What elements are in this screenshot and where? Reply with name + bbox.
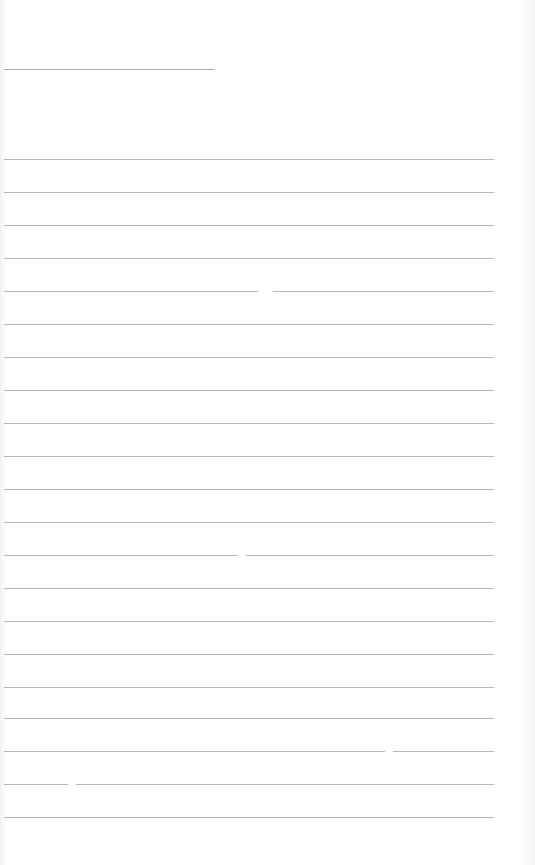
ruled-line [4,654,494,655]
ruled-line [4,751,385,752]
ruled-line [246,555,494,556]
lined-paper-page [0,0,535,865]
ruled-line [4,357,494,358]
ruled-line [4,718,494,719]
ruled-line [4,192,494,193]
ruled-line [4,687,494,688]
ruled-line [393,751,494,752]
ruled-line [4,159,494,160]
ruled-line [4,817,494,818]
ruled-line [4,291,258,292]
ruled-line [4,423,494,424]
ruled-line [4,522,494,523]
ruled-line [4,588,494,589]
header-rule [4,69,214,70]
ruled-line [4,225,494,226]
ruled-line [4,489,494,490]
ruled-line [4,621,494,622]
ruled-line [4,390,494,391]
ruled-line [4,456,494,457]
ruled-line [76,784,494,785]
ruled-line [273,291,494,292]
ruled-line [4,555,238,556]
ruled-line [4,324,494,325]
ruled-line [4,784,68,785]
ruled-line [4,258,494,259]
